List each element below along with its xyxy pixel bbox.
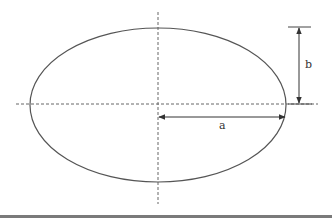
- ellipse-diagram: a b: [0, 0, 332, 218]
- bottom-rule: [0, 215, 332, 218]
- semi-minor-label: b: [305, 58, 312, 71]
- semi-major-label: a: [219, 119, 226, 132]
